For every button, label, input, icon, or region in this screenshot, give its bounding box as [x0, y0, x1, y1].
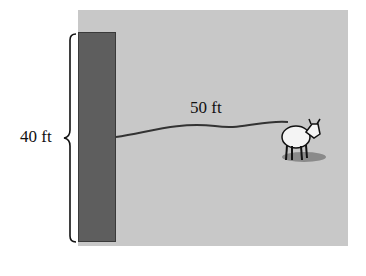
- goat-icon: [282, 119, 326, 162]
- rope-length-label: 50 ft: [190, 99, 222, 116]
- wall-height-label: 40 ft: [20, 128, 52, 145]
- diagram-drawing: [0, 0, 366, 276]
- height-brace: [64, 34, 76, 242]
- rope: [116, 122, 288, 137]
